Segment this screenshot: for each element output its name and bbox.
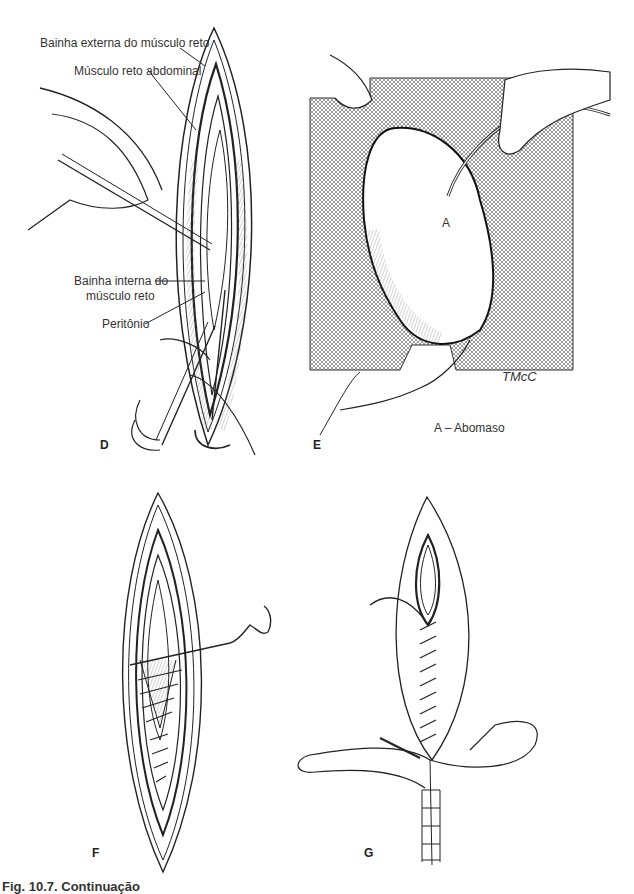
- label-point-a: A: [442, 216, 450, 230]
- artist-signature: TMcC: [502, 369, 537, 384]
- panel-f-drawing: [123, 493, 271, 872]
- figure-caption: Fig. 10.7. Continuação: [2, 879, 140, 894]
- label-bainha-externa: Bainha externa do músculo reto: [40, 36, 209, 50]
- label-bainha-interna-line1: Bainha interna do: [74, 274, 168, 288]
- label-musculo-reto-abdominal: Músculo reto abdominal: [74, 64, 201, 78]
- panel-letter-g: G: [364, 846, 373, 860]
- label-peritonio: Peritônio: [102, 317, 149, 331]
- panel-letter-e: E: [313, 438, 321, 452]
- panel-letter-d: D: [100, 438, 109, 452]
- panel-d-drawing: [28, 28, 255, 455]
- panel-e-drawing: [310, 55, 610, 435]
- panel-letter-f: F: [92, 846, 99, 860]
- label-bainha-interna-line2: músculo reto: [86, 289, 155, 303]
- legend-abomaso: A – Abomaso: [434, 421, 505, 435]
- panel-g-drawing: [298, 497, 537, 865]
